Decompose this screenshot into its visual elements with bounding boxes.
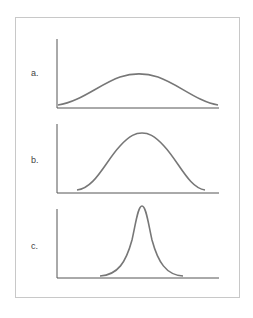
panel-a-curve: [58, 74, 218, 105]
panel-b-curve: [77, 133, 205, 190]
panel-c-axes: [57, 209, 219, 278]
panel-b: [57, 124, 219, 193]
panel-c: [57, 206, 219, 278]
panel-b-axes: [57, 124, 219, 193]
panel-c-curve: [100, 206, 183, 276]
panel-a: [57, 39, 219, 108]
distribution-plots: [0, 0, 253, 318]
